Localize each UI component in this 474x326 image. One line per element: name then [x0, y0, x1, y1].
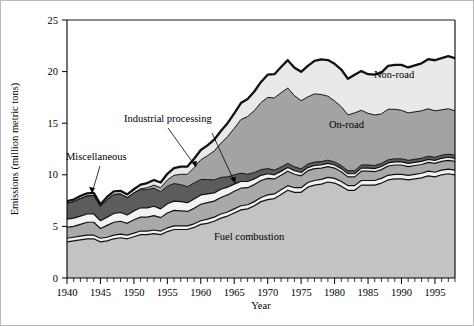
x-tick-label: 1965	[224, 287, 245, 298]
x-tick-label: 1945	[90, 287, 111, 298]
y-tick-label: 15	[48, 118, 59, 129]
annotation-fuel-combustion: Fuel combustion	[214, 231, 285, 242]
annotation-non-road: Non-road	[374, 69, 415, 80]
x-axis-ticks: 1940194519501955196019651970197519801985…	[57, 278, 456, 298]
y-tick-label: 5	[53, 221, 58, 232]
x-tick-label: 1985	[358, 287, 379, 298]
y-axis-title: Emissions (million metric tons)	[9, 82, 21, 215]
x-tick-label: 1975	[291, 287, 312, 298]
annotation-on-road: On-road	[329, 119, 365, 130]
x-axis-title: Year	[251, 300, 271, 311]
x-tick-label: 1990	[391, 287, 412, 298]
emissions-stacked-area-chart: 0510152025 19401945195019551960196519701…	[0, 0, 474, 326]
x-tick-label: 1970	[257, 287, 278, 298]
x-tick-label: 1980	[324, 287, 345, 298]
annotation-miscellaneous: Miscellaneous	[66, 151, 127, 162]
annotation-industrial-processing: Industrial processing	[124, 113, 213, 124]
y-tick-label: 10	[48, 169, 59, 180]
x-tick-label: 1940	[57, 287, 78, 298]
y-axis-ticks: 0510152025	[48, 15, 68, 284]
chart-container: 0510152025 19401945195019551960196519701…	[0, 0, 474, 326]
x-tick-label: 1960	[190, 287, 211, 298]
x-tick-label: 1955	[157, 287, 178, 298]
y-tick-label: 25	[48, 15, 59, 26]
y-tick-label: 20	[48, 66, 59, 77]
y-tick-label: 0	[53, 273, 58, 284]
x-tick-label: 1995	[424, 287, 445, 298]
x-tick-label: 1950	[123, 287, 144, 298]
